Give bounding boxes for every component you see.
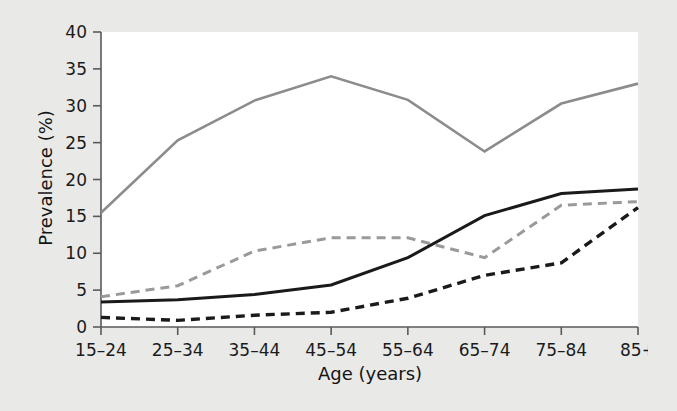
y-tick-label: 30 <box>65 96 87 116</box>
x-axis-ticks <box>101 327 638 335</box>
y-tick-label: 10 <box>65 243 87 263</box>
chart-card: 0510152025303540 15–2425–3435–4445–5455–… <box>30 18 648 390</box>
y-axis-ticks <box>93 32 101 327</box>
y-tick-label: 35 <box>65 59 87 79</box>
y-tick-label: 5 <box>76 280 87 300</box>
x-tick-label: 55–64 <box>382 340 434 360</box>
x-tick-label: 85+ <box>620 340 648 360</box>
y-tick-label: 20 <box>65 170 87 190</box>
x-tick-label: 25–34 <box>152 340 204 360</box>
x-tick-label: 35–44 <box>229 340 281 360</box>
y-tick-label: 25 <box>65 133 87 153</box>
y-axis-tick-labels: 0510152025303540 <box>65 22 87 337</box>
line-chart: 0510152025303540 15–2425–3435–4445–5455–… <box>30 18 648 390</box>
y-axis-title: Prevalence (%) <box>35 110 56 246</box>
x-tick-label: 65–74 <box>459 340 511 360</box>
figure-container: 0510152025303540 15–2425–3435–4445–5455–… <box>0 0 677 411</box>
y-tick-label: 0 <box>76 317 87 337</box>
x-axis-tick-labels: 15–2425–3435–4445–5455–6465–7475–8485+ <box>75 340 648 360</box>
x-tick-label: 45–54 <box>305 340 357 360</box>
x-tick-label: 15–24 <box>75 340 127 360</box>
x-tick-label: 75–84 <box>535 340 587 360</box>
y-tick-label: 40 <box>65 22 87 42</box>
x-axis-title: Age (years) <box>318 363 422 384</box>
y-tick-label: 15 <box>65 206 87 226</box>
